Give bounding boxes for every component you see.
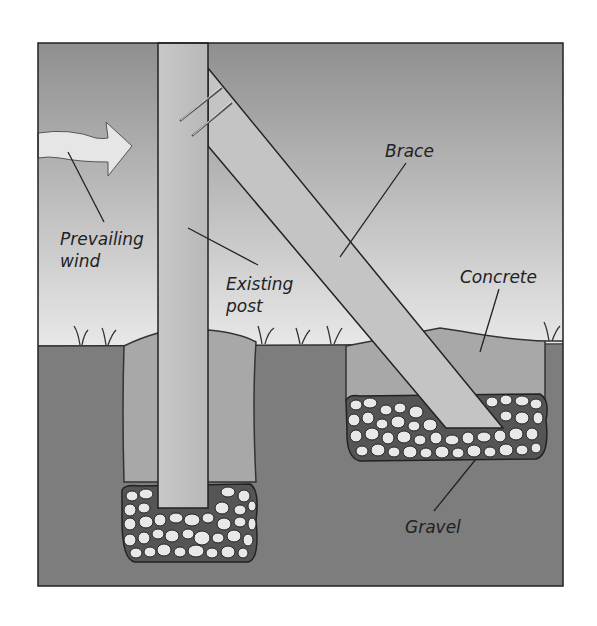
label-prevailing-wind-1: Prevailing [60, 229, 144, 249]
existing-post [158, 43, 208, 508]
fence-post-brace-diagram: Prevailing wind Existing post Brace Conc… [0, 0, 597, 626]
label-gravel: Gravel [405, 517, 461, 537]
label-brace: Brace [385, 141, 434, 161]
label-concrete: Concrete [460, 267, 537, 287]
label-existing-post-1: Existing [226, 274, 294, 294]
label-existing-post-2: post [225, 296, 264, 316]
label-prevailing-wind-2: wind [60, 251, 100, 271]
